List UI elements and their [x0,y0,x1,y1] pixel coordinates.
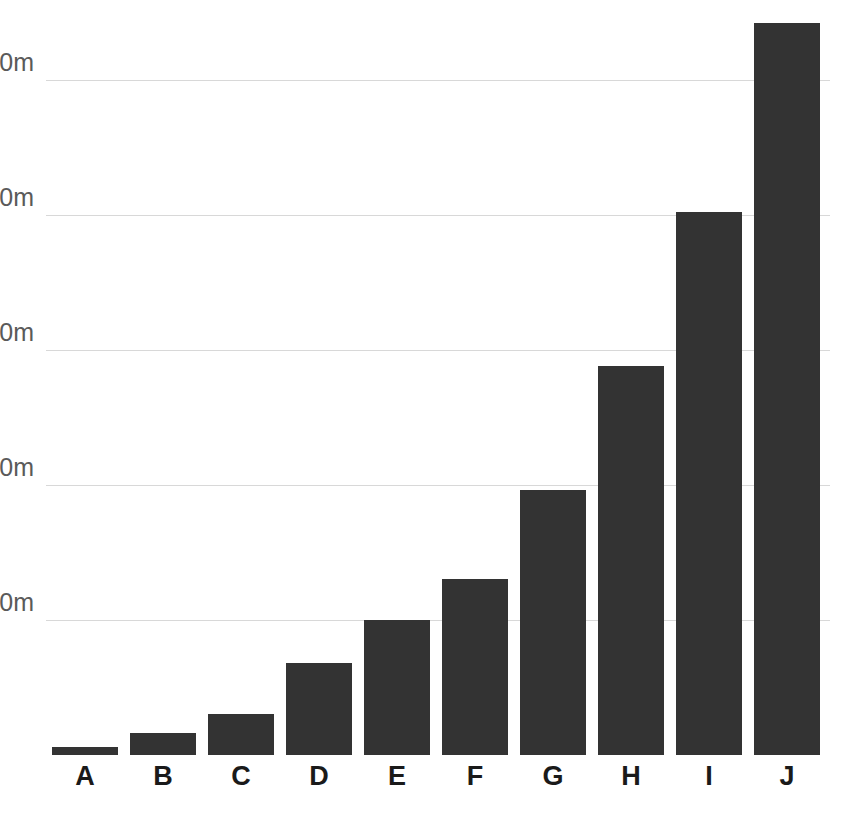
bar-D [286,663,352,755]
x-axis-labels: A B C D E F G H I J [46,762,830,807]
x-tick-label-E: E [364,762,430,792]
bar-C [208,714,274,755]
x-tick-label-C: C [208,762,274,792]
bar-H [598,366,664,755]
bar-J [754,23,820,755]
y-tick-label-200m: 200m [0,185,34,210]
x-tick-label-I: I [676,762,742,792]
x-tick-label-A: A [52,762,118,792]
y-tick-label-150m: 150m [0,320,34,345]
y-tick-label-250m: 250m [0,50,34,75]
bar-A [52,747,118,755]
bar-chart: 50m 100m 150m 200m 250m A [0,0,847,835]
bar-B [130,733,196,755]
x-tick-label-B: B [130,762,196,792]
bar-E [364,620,430,755]
x-tick-label-J: J [754,762,820,792]
bars-layer [46,0,830,755]
bar-G [520,490,586,755]
y-tick-label-50m: 50m [0,590,34,615]
x-tick-label-H: H [598,762,664,792]
x-tick-label-D: D [286,762,352,792]
x-tick-label-G: G [520,762,586,792]
y-tick-label-100m: 100m [0,455,34,480]
x-tick-label-F: F [442,762,508,792]
bar-F [442,579,508,755]
bar-I [676,212,742,755]
